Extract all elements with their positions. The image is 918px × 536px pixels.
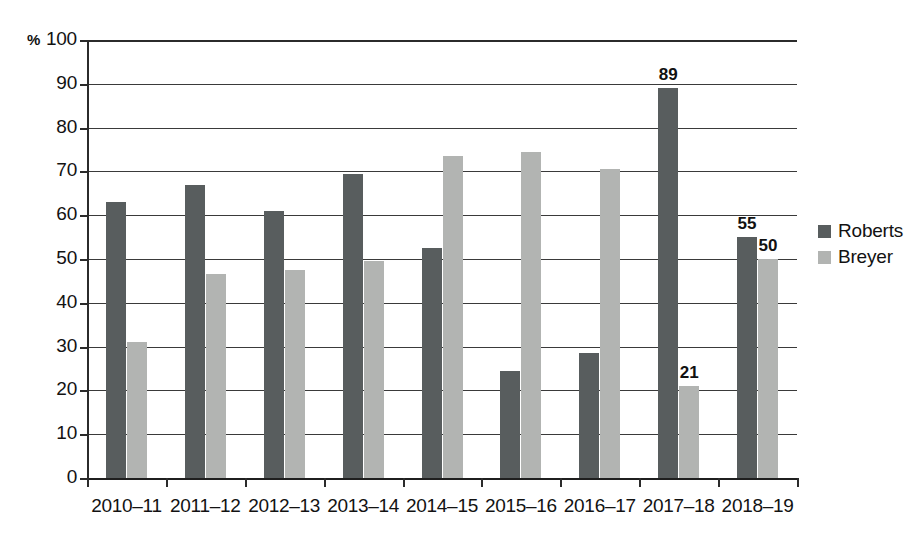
chart-legend: Roberts Breyer [818,218,903,270]
x-tick-mark-7 [639,478,641,487]
x-axis-label-2018–19: 2018–19 [712,495,803,517]
bar-value-label-breyer-2018–19: 50 [744,236,792,256]
bar-breyer-2011–12 [206,274,226,478]
bar-roberts-2010–11 [106,202,126,478]
y-axis-tick-10: 10 [56,422,77,444]
y-axis-tick-80: 80 [56,116,77,138]
gridline-0 [87,478,797,480]
x-axis-label-2010–11: 2010–11 [81,495,172,517]
y-axis-tick-0: 0 [67,466,77,488]
y-axis-unit-label: % [27,31,40,48]
y-axis-tick-30: 30 [56,335,77,357]
plot-area: 89215550 [87,40,797,478]
legend-swatch-roberts [818,225,831,238]
bar-breyer-2010–11 [127,342,147,478]
x-axis-label-2014–15: 2014–15 [397,495,488,517]
y-axis-tick-70: 70 [56,159,77,181]
bar-roberts-2016–17 [579,353,599,478]
y-axis-tick-100: 100 [46,28,77,50]
x-tick-mark-1 [166,478,168,487]
x-tick-mark-9 [797,478,799,487]
y-axis-tick-90: 90 [56,72,77,94]
bar-roberts-2011–12 [185,185,205,478]
bar-breyer-2012–13 [285,270,305,478]
y-axis-tick-50: 50 [56,247,77,269]
x-tick-mark-4 [403,478,405,487]
legend-swatch-breyer [818,251,831,264]
x-axis-label-2017–18: 2017–18 [633,495,724,517]
bar-roberts-2018–19 [737,237,757,478]
x-axis-label-2012–13: 2012–13 [239,495,330,517]
bar-roberts-2015–16 [500,371,520,478]
bar-roberts-2012–13 [264,211,284,478]
bar-breyer-2018–19 [758,259,778,478]
bar-breyer-2014–15 [443,156,463,478]
legend-label-roberts: Roberts [838,220,903,242]
legend-item-roberts: Roberts [818,218,903,244]
bar-breyer-2013–14 [364,261,384,478]
bar-value-label-roberts-2018–19: 55 [723,214,771,234]
bar-roberts-2014–15 [422,248,442,478]
x-axis-label-2013–14: 2013–14 [318,495,409,517]
legend-label-breyer: Breyer [838,246,893,268]
y-axis-tick-20: 20 [56,378,77,400]
y-axis-tick-40: 40 [56,291,77,313]
bar-breyer-2017–18 [679,386,699,478]
legend-item-breyer: Breyer [818,244,903,270]
x-tick-mark-8 [718,478,720,487]
bar-breyer-2015–16 [521,152,541,478]
bar-value-label-breyer-2017–18: 21 [665,363,713,383]
bar-breyer-2016–17 [600,169,620,478]
y-axis-tick-60: 60 [56,203,77,225]
x-tick-mark-5 [481,478,483,487]
x-tick-mark-3 [324,478,326,487]
bar-roberts-2017–18 [658,88,678,478]
x-axis-label-2016–17: 2016–17 [554,495,645,517]
x-axis-label-2011–12: 2011–12 [160,495,251,517]
x-tick-mark-6 [560,478,562,487]
bar-roberts-2013–14 [343,174,363,478]
x-tick-mark-2 [245,478,247,487]
x-axis-label-2015–16: 2015–16 [475,495,566,517]
bar-value-label-roberts-2017–18: 89 [644,65,692,85]
bar-chart: % 1009080706050403020100 89215550 2010–1… [0,0,918,536]
x-tick-mark-0 [87,478,89,487]
